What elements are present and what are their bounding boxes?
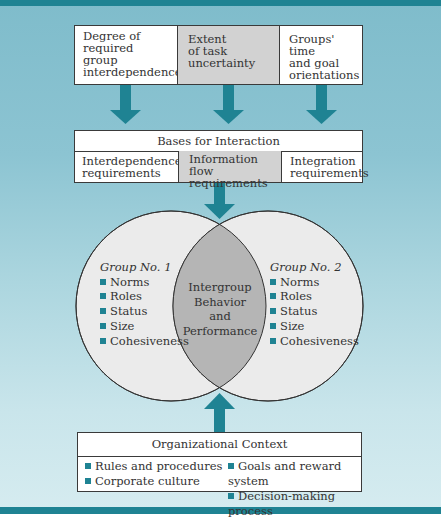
intersection-label: Intergroup Behavior and Performance [180, 280, 260, 338]
square-bullet-icon [270, 279, 276, 285]
intersection-line: and [180, 309, 260, 324]
square-bullet-icon [228, 463, 234, 469]
list-item: Status [100, 304, 189, 319]
item-label: Rules and procedures [95, 459, 222, 473]
basis-line: Information flow [189, 153, 281, 177]
basis-interdependence: Interdependence requirements [75, 151, 178, 182]
organizational-context-box: Organizational Context Rules and procedu… [77, 432, 362, 492]
list-item: Corporate culture [85, 474, 222, 489]
factor-line: uncertainty [188, 57, 279, 69]
square-bullet-icon [270, 293, 276, 299]
item-label: Norms [280, 275, 319, 289]
basis-information-flow: Information flow requirements [178, 151, 281, 182]
square-bullet-icon [100, 323, 106, 329]
intersection-line: Performance [180, 324, 260, 339]
square-bullet-icon [100, 293, 106, 299]
group-1-list: Group No. 1 Norms Roles Status Size Cohe… [100, 260, 189, 348]
item-label: Corporate culture [95, 474, 200, 488]
item-label: Cohesiveness [280, 334, 359, 348]
square-bullet-icon [100, 338, 106, 344]
item-label: Decision-making process [228, 489, 335, 518]
intersection-line: Intergroup [180, 280, 260, 295]
square-bullet-icon [270, 308, 276, 314]
item-label: Roles [110, 289, 142, 303]
square-bullet-icon [228, 493, 234, 499]
item-label: Goals and reward system [228, 459, 341, 488]
list-item: Status [270, 304, 359, 319]
item-label: Cohesiveness [110, 334, 189, 348]
bases-for-interaction-box: Bases for Interaction Interdependence re… [74, 130, 363, 183]
top-accent-strip [0, 0, 441, 6]
factor-line: orientations [289, 69, 362, 81]
item-label: Status [280, 304, 317, 318]
square-bullet-icon [270, 338, 276, 344]
list-item: Roles [270, 289, 359, 304]
list-item: Goals and reward system [228, 459, 361, 489]
basis-line: requirements [189, 177, 281, 189]
factor-line: interdependence [83, 66, 177, 78]
factor-line: Groups' time [289, 33, 362, 57]
basis-line: requirements [290, 167, 362, 179]
bases-row: Interdependence requirements Information… [75, 151, 362, 182]
group-2-title: Group No. 2 [270, 260, 359, 275]
list-item: Norms [270, 275, 359, 290]
square-bullet-icon [85, 478, 91, 484]
item-label: Size [110, 319, 134, 333]
item-label: Status [110, 304, 147, 318]
square-bullet-icon [85, 463, 91, 469]
bottom-accent-strip [0, 507, 441, 514]
list-item: Rules and procedures [85, 459, 222, 474]
group-2-list: Group No. 2 Norms Roles Status Size Cohe… [270, 260, 359, 348]
factor-task-uncertainty: Extent of task uncertainty [177, 26, 279, 84]
square-bullet-icon [100, 308, 106, 314]
square-bullet-icon [270, 323, 276, 329]
item-label: Size [280, 319, 304, 333]
list-item: Cohesiveness [270, 334, 359, 349]
list-item: Norms [100, 275, 189, 290]
bases-title: Bases for Interaction [75, 131, 362, 152]
list-item: Decision-making process [228, 489, 361, 519]
group-1-title: Group No. 1 [100, 260, 189, 275]
org-context-left-list: Rules and procedures Corporate culture [85, 459, 222, 489]
item-label: Norms [110, 275, 149, 289]
square-bullet-icon [100, 279, 106, 285]
factor-interdependence: Degree of required group interdependence [75, 26, 177, 84]
org-context-right-list: Goals and reward system Decision-making … [228, 459, 361, 519]
list-item: Size [100, 319, 189, 334]
basis-line: requirements [82, 167, 178, 179]
item-label: Roles [280, 289, 312, 303]
list-item: Roles [100, 289, 189, 304]
basis-integration: Integration requirements [281, 151, 362, 182]
list-item: Size [270, 319, 359, 334]
list-item: Cohesiveness [100, 334, 189, 349]
factor-time-goal-orientations: Groups' time and goal orientations [279, 26, 362, 84]
determinants-box: Degree of required group interdependence… [74, 25, 363, 85]
org-context-title: Organizational Context [78, 433, 361, 457]
intersection-line: Behavior [180, 295, 260, 310]
